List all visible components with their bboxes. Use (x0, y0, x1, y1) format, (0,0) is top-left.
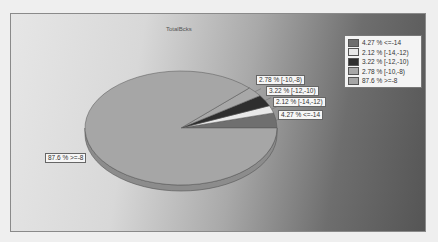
slice-label-10-8: 2.78 % [-10,-8) (256, 75, 305, 85)
legend-label: 4.27 % <=-14 (362, 39, 401, 46)
legend-item: 87.6 % >=-8 (348, 76, 419, 86)
legend-item: 2.78 % [-10,-8) (348, 67, 419, 77)
legend-swatch (348, 39, 359, 47)
legend-swatch (348, 77, 359, 85)
legend-label: 2.12 % [-14,-12) (362, 49, 409, 56)
legend-label: 2.78 % [-10,-8) (362, 68, 405, 75)
legend-label: 87.6 % >=-8 (362, 77, 397, 84)
pie-slices (85, 71, 277, 185)
chart-legend: 4.27 % <=-14 2.12 % [-14,-12) 3.22 % [-1… (344, 35, 422, 88)
legend-swatch (348, 48, 359, 56)
slice-label-ge-8: 87.6 % >=-8 (45, 153, 86, 163)
legend-label: 3.22 % [-12,-10) (362, 58, 409, 65)
pie-slice (85, 71, 277, 185)
legend-swatch (348, 58, 359, 66)
legend-item: 2.12 % [-14,-12) (348, 48, 419, 58)
legend-item: 3.22 % [-12,-10) (348, 57, 419, 67)
legend-swatch (348, 67, 359, 75)
slice-label-le-14: 4.27 % <=-14 (278, 110, 323, 120)
legend-item: 4.27 % <=-14 (348, 38, 419, 48)
slice-label-14-12: 2.12 % [-14,-12) (273, 97, 326, 107)
slice-label-12-10: 3.22 % [-12,-10) (266, 86, 319, 96)
chart-frame: TotalBcks 4.27 % <=-14 2.12 % [-14,-12) … (10, 13, 426, 232)
